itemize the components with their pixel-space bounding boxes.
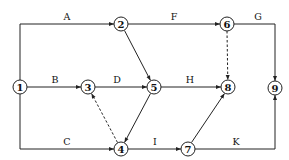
node-2: 2 [114, 17, 128, 31]
dummy-edge-6-8 [227, 31, 228, 80]
edge-label-b: B [52, 74, 59, 85]
node-9-label: 9 [272, 83, 279, 94]
network-diagram: A B C D F G H I K 1 2 3 4 5 6 7 8 9 [0, 0, 289, 160]
node-6-label: 6 [224, 19, 231, 30]
node-5-label: 5 [151, 82, 158, 93]
node-3-label: 3 [85, 82, 92, 93]
node-5: 5 [147, 80, 161, 94]
edge-5-4 [125, 94, 151, 143]
edge-2-5 [125, 31, 151, 81]
node-3: 3 [81, 80, 95, 94]
edge-7-8 [192, 94, 225, 143]
node-8: 8 [221, 80, 235, 94]
node-7-label: 7 [185, 144, 192, 155]
edge-label-h: H [186, 74, 194, 85]
edge-label-c: C [63, 136, 70, 147]
edge-label-a: A [63, 11, 71, 22]
node-2-label: 2 [118, 19, 125, 30]
edge-a [20, 24, 114, 80]
node-1: 1 [13, 80, 27, 94]
edge-label-g: G [254, 11, 262, 22]
dummy-edge-4-3 [92, 94, 118, 143]
node-4-label: 4 [118, 144, 125, 155]
node-9: 9 [268, 81, 282, 95]
node-6: 6 [220, 17, 234, 31]
edge-label-d: D [113, 74, 121, 85]
edge-label-k: K [232, 136, 240, 147]
edge-label-f: F [171, 11, 178, 22]
edge-g [234, 24, 275, 81]
node-4: 4 [114, 142, 128, 156]
node-8-label: 8 [225, 82, 232, 93]
node-7: 7 [181, 142, 195, 156]
edge-label-i: I [153, 136, 157, 147]
node-1-label: 1 [17, 82, 24, 93]
